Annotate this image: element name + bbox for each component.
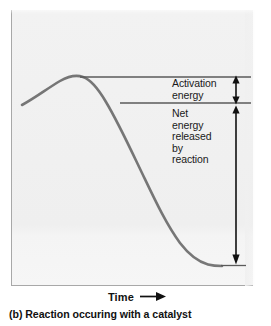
figure-caption: (b) Reaction occuring with a catalyst	[9, 308, 191, 320]
right-arrow-icon	[140, 292, 166, 301]
x-axis-label: Time	[108, 291, 134, 303]
activation-energy-label: Activation energy	[172, 78, 234, 101]
x-axis-label-group: Time	[108, 291, 134, 303]
energy-diagram-figure: Activation energy Net energy released by…	[0, 0, 271, 326]
net-energy-label: Net energy released by reaction	[172, 108, 232, 166]
